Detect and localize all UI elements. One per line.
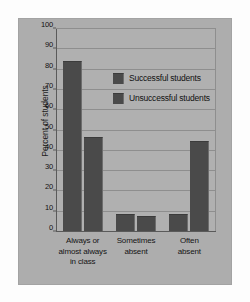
x-axis-label-line: absent	[163, 247, 216, 258]
gridline	[56, 28, 216, 29]
y-axis-tick-label: 50	[45, 121, 53, 130]
y-axis-tick-label: 70	[45, 80, 53, 89]
y-axis-tick-label: 30	[45, 162, 53, 171]
legend-item: Unsuccessful students	[113, 90, 233, 106]
bar	[169, 214, 188, 231]
bar	[137, 216, 156, 231]
y-axis-tick-label: 100	[41, 20, 53, 29]
x-axis-labels: Always oralmost alwaysin classSometimesa…	[56, 236, 216, 286]
legend-label: Unsuccessful students	[129, 93, 210, 103]
x-axis-label-line: Often	[163, 236, 216, 247]
plot-area: 0102030405060708090100	[56, 29, 216, 232]
x-axis-group-label: Sometimesabsent	[109, 236, 162, 257]
x-axis-label-line: absent	[109, 247, 162, 258]
bar	[63, 61, 82, 231]
bar	[190, 141, 209, 231]
y-axis-tick-label: 90	[45, 40, 53, 49]
gridline	[56, 48, 216, 49]
x-axis-label-line: Always or	[56, 236, 109, 247]
y-axis-tick-label: 40	[45, 141, 53, 150]
legend-swatch-icon	[113, 93, 124, 104]
chart-panel: Percent of students 01020304050607080901…	[18, 18, 232, 285]
legend-label: Successful students	[129, 73, 201, 83]
bar	[84, 137, 103, 231]
x-axis-line	[56, 231, 216, 232]
x-axis-label-line: in class	[56, 257, 109, 268]
chart-legend: Successful studentsUnsuccessful students	[113, 70, 233, 110]
y-axis-tick-label: 20	[45, 182, 53, 191]
plot-right-border	[215, 29, 216, 232]
y-axis-tick-label: 60	[45, 101, 53, 110]
y-axis-tick-label: 10	[45, 202, 53, 211]
bar	[116, 214, 135, 231]
x-axis-label-line: Sometimes	[109, 236, 162, 247]
legend-swatch-icon	[113, 73, 124, 84]
x-axis-group-label: Oftenabsent	[163, 236, 216, 257]
legend-item: Successful students	[113, 70, 233, 86]
chart-figure: Percent of students 01020304050607080901…	[0, 0, 250, 302]
x-axis-group-label: Always oralmost alwaysin class	[56, 236, 109, 268]
y-axis-tick-label: 80	[45, 60, 53, 69]
y-axis-line	[56, 29, 57, 232]
x-axis-label-line: almost always	[56, 247, 109, 258]
